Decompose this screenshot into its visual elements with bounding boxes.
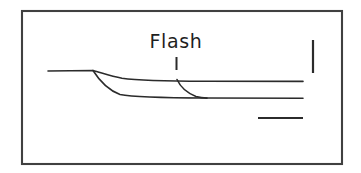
trace-figure-svg: Flash <box>0 0 361 173</box>
figure-container: Flash <box>0 0 361 173</box>
flash-label: Flash <box>150 30 203 52</box>
